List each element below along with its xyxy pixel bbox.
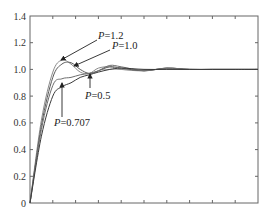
annotation-p0.5: P=0.5 xyxy=(84,74,110,101)
y-label-0.2: 0.2 xyxy=(14,171,27,182)
curve-p1.0 xyxy=(30,62,258,203)
step-response-chart: 0 0.2 0.4 0.6 0.8 1.0 1.2 1.4 P=1.2 P=1.… xyxy=(0,0,270,221)
svg-text:P=0.707: P=0.707 xyxy=(53,117,90,128)
y-label-0.8: 0.8 xyxy=(14,91,27,102)
x-ticks xyxy=(53,16,235,203)
curve-p1.2 xyxy=(30,60,258,203)
svg-text:P=0.5: P=0.5 xyxy=(84,90,110,101)
annot-value: =0.707 xyxy=(60,117,90,128)
y-label-1.4: 1.4 xyxy=(14,11,27,22)
y-label-0: 0 xyxy=(21,198,26,209)
y-label-0.6: 0.6 xyxy=(14,117,27,128)
y-label-1.0: 1.0 xyxy=(14,64,27,75)
response-curves xyxy=(30,60,258,203)
y-label-0.4: 0.4 xyxy=(14,144,27,155)
annotation-p1.0: P=1.0 xyxy=(74,40,137,66)
svg-text:P=1.0: P=1.0 xyxy=(111,40,137,51)
annot-value: =0.5 xyxy=(91,90,110,101)
y-tick-labels: 0 0.2 0.4 0.6 0.8 1.0 1.2 1.4 xyxy=(14,11,27,209)
plot-frame xyxy=(30,16,258,203)
curve-p0.5 xyxy=(30,68,258,203)
y-label-1.2: 1.2 xyxy=(14,37,27,48)
annot-value: =1.0 xyxy=(118,40,137,51)
